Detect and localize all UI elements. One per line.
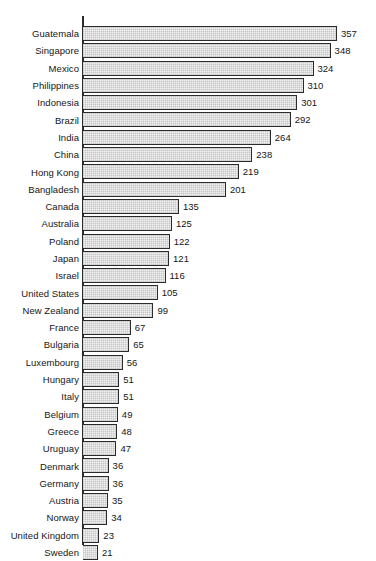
- bar-category-label: Hong Kong: [0, 167, 79, 178]
- bar-category-label: Italy: [0, 391, 79, 402]
- bar-value-label: 51: [123, 391, 134, 402]
- bar-category-label: Norway: [0, 512, 79, 523]
- bar-value-label: 99: [157, 305, 168, 316]
- bar: [83, 251, 169, 266]
- bar-and-value: 21: [83, 545, 113, 560]
- bar-and-value: 292: [83, 112, 311, 127]
- bar: [83, 234, 170, 249]
- bar-category-label: Canada: [0, 201, 79, 212]
- bar: [83, 147, 252, 162]
- bar-row: Bangladesh201: [0, 181, 376, 198]
- bar-category-label: France: [0, 322, 79, 333]
- bar-value-label: 135: [183, 201, 199, 212]
- bar: [83, 476, 109, 491]
- bar-row: Denmark36: [0, 457, 376, 474]
- bar-value-label: 36: [113, 478, 124, 489]
- bar-value-label: 116: [170, 270, 185, 281]
- bar-value-label: 357: [341, 28, 357, 39]
- bar: [83, 372, 119, 387]
- bar-value-label: 121: [173, 253, 189, 264]
- bar-and-value: 36: [83, 458, 123, 473]
- bar-value-label: 125: [176, 218, 192, 229]
- bar-value-label: 23: [103, 530, 114, 541]
- bar-and-value: 219: [83, 164, 259, 179]
- bar-row: Israel116: [0, 267, 376, 284]
- bar-category-label: Singapore: [0, 45, 79, 56]
- bar-category-label: Australia: [0, 218, 79, 229]
- bar-row: India264: [0, 129, 376, 146]
- bar-row: Guatemala357: [0, 25, 376, 42]
- bar-and-value: 65: [83, 337, 144, 352]
- bar: [83, 95, 297, 110]
- bar-value-label: 238: [256, 149, 272, 160]
- bar: [83, 268, 166, 283]
- bar-and-value: 34: [83, 510, 122, 525]
- bar-row: Brazil292: [0, 111, 376, 128]
- bar-and-value: 135: [83, 199, 199, 214]
- bar: [83, 337, 129, 352]
- bar: [83, 528, 99, 543]
- bar: [83, 320, 131, 335]
- bar-value-label: 264: [275, 132, 291, 143]
- bar: [83, 61, 314, 76]
- bar-row: Mexico324: [0, 60, 376, 77]
- bar-value-label: 48: [121, 426, 132, 437]
- bar-and-value: 264: [83, 130, 291, 145]
- bar-category-label: Greece: [0, 426, 79, 437]
- bar-category-label: Uruguay: [0, 443, 79, 454]
- bar: [83, 424, 117, 439]
- bar-and-value: 36: [83, 476, 123, 491]
- bar-category-label: Brazil: [0, 115, 79, 126]
- bar-value-label: 67: [135, 322, 146, 333]
- bar-and-value: 301: [83, 95, 317, 110]
- bar-row: Singapore348: [0, 42, 376, 59]
- bar-value-label: 105: [162, 287, 178, 298]
- bar-row: United States105: [0, 284, 376, 301]
- bar-category-label: India: [0, 132, 79, 143]
- bar-row: Philippines310: [0, 77, 376, 94]
- bar: [83, 389, 119, 404]
- bar-and-value: 105: [83, 285, 178, 300]
- bar-and-value: 67: [83, 320, 145, 335]
- bar: [83, 545, 98, 560]
- bar-value-label: 49: [122, 409, 133, 420]
- bar: [83, 493, 108, 508]
- bar: [83, 112, 291, 127]
- bar-category-label: United Kingdom: [0, 530, 79, 541]
- bar-and-value: 125: [83, 216, 192, 231]
- bar-category-label: China: [0, 149, 79, 160]
- bar: [83, 164, 239, 179]
- bar-value-label: 56: [127, 357, 138, 368]
- bar-and-value: 201: [83, 182, 246, 197]
- bar-value-label: 34: [111, 512, 122, 523]
- bar-row: Uruguay47: [0, 440, 376, 457]
- bar-and-value: 116: [83, 268, 185, 283]
- bar-and-value: 56: [83, 355, 137, 370]
- bar: [83, 407, 118, 422]
- bar-and-value: 324: [83, 61, 333, 76]
- bar-value-label: 301: [301, 97, 317, 108]
- bar-row: Indonesia301: [0, 94, 376, 111]
- bar-and-value: 35: [83, 493, 122, 508]
- bar-row: Italy51: [0, 388, 376, 405]
- bar: [83, 458, 109, 473]
- bar-row: Austria35: [0, 492, 376, 509]
- bar-category-label: United States: [0, 288, 79, 299]
- bar-row: Hong Kong219: [0, 163, 376, 180]
- bar-and-value: 238: [83, 147, 272, 162]
- bar-value-label: 310: [308, 80, 324, 91]
- bar-category-label: Indonesia: [0, 97, 79, 108]
- bar-category-label: Belgium: [0, 409, 79, 420]
- bar-row: Belgium49: [0, 406, 376, 423]
- bar-and-value: 310: [83, 78, 323, 93]
- bar-and-value: 51: [83, 389, 134, 404]
- bar-category-label: Bulgaria: [0, 339, 79, 350]
- bar-category-label: Germany: [0, 478, 79, 489]
- bar: [83, 216, 172, 231]
- bar-category-label: New Zealand: [0, 305, 79, 316]
- bar-value-label: 36: [113, 460, 124, 471]
- bar-row: Hungary51: [0, 371, 376, 388]
- bar-value-label: 35: [112, 495, 123, 506]
- bar-and-value: 121: [83, 251, 189, 266]
